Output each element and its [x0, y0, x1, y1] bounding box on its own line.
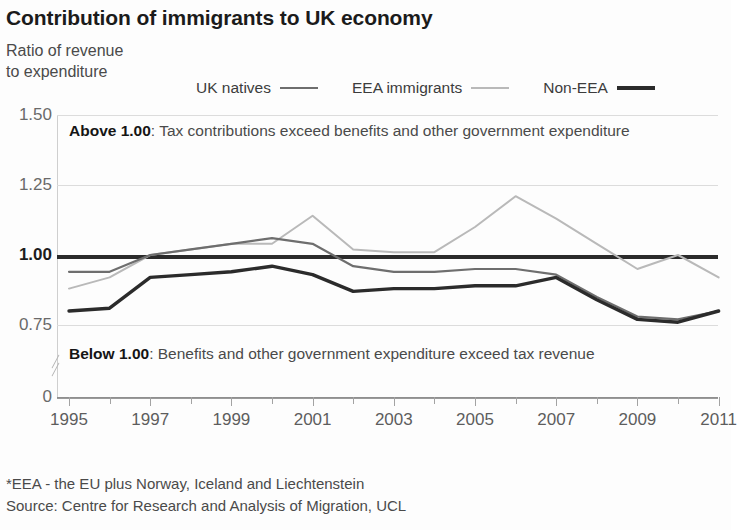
- y-tick-label-0: 0: [0, 387, 52, 407]
- x-axis-line: [57, 397, 718, 398]
- legend-swatch-uk-natives-icon: [280, 87, 318, 89]
- footer-note: *EEA - the EU plus Norway, Iceland and L…: [6, 473, 406, 517]
- y-tick-label-0-75: 0.75: [0, 315, 52, 335]
- x-tick-1997: [150, 397, 151, 406]
- x-tick-2001: [313, 397, 314, 406]
- x-tick-2006: [516, 397, 517, 404]
- x-tick-label-2005: 2005: [456, 410, 494, 430]
- chart-legend: UK natives EEA immigrants Non-EEA: [196, 79, 655, 97]
- plot-area: 00.751.001.251.50 Above 1.00: Tax contri…: [57, 115, 718, 397]
- x-tick-2009: [637, 397, 638, 406]
- x-tick-2004: [434, 397, 435, 404]
- legend-label-eea-immigrants: EEA immigrants: [352, 79, 462, 97]
- series-line-non-eea: [69, 266, 719, 322]
- legend-label-non-eea: Non-EEA: [543, 79, 608, 97]
- y-axis-caption: Ratio of revenue to expenditure: [6, 40, 123, 82]
- legend-item-uk-natives: UK natives: [196, 79, 318, 97]
- x-tick-2003: [394, 397, 395, 406]
- x-tick-label-1999: 1999: [212, 410, 250, 430]
- page-title: Contribution of immigrants to UK economy: [6, 6, 433, 30]
- y-tick-label-1-25: 1.25: [0, 175, 52, 195]
- x-tick-1998: [191, 397, 192, 404]
- x-tick-2005: [475, 397, 476, 406]
- x-tick-label-2011: 2011: [700, 410, 737, 430]
- x-tick-2011: [719, 397, 720, 406]
- x-tick-1996: [110, 397, 111, 404]
- series-lines: [57, 115, 718, 397]
- legend-label-uk-natives: UK natives: [196, 79, 271, 97]
- x-axis: 199519971999200120032005200720092011: [57, 397, 718, 439]
- x-tick-2007: [556, 397, 557, 406]
- y-tick-label-1-50: 1.50: [0, 105, 52, 125]
- x-tick-label-2003: 2003: [375, 410, 413, 430]
- legend-swatch-eea-immigrants-icon: [471, 87, 509, 89]
- legend-item-eea-immigrants: EEA immigrants: [352, 79, 509, 97]
- x-tick-label-2009: 2009: [618, 410, 656, 430]
- x-tick-2008: [597, 397, 598, 404]
- x-tick-label-2001: 2001: [294, 410, 332, 430]
- x-tick-2010: [678, 397, 679, 404]
- x-tick-1995: [69, 397, 70, 406]
- x-tick-label-1995: 1995: [50, 410, 88, 430]
- x-tick-1999: [231, 397, 232, 406]
- series-line-uk-natives: [69, 238, 719, 319]
- x-tick-2000: [272, 397, 273, 404]
- x-tick-label-1997: 1997: [131, 410, 169, 430]
- x-tick-2002: [353, 397, 354, 404]
- y-tick-label-1-00: 1.00: [0, 245, 52, 265]
- legend-swatch-non-eea-icon: [617, 86, 655, 90]
- legend-item-non-eea: Non-EEA: [543, 79, 655, 97]
- x-tick-label-2007: 2007: [537, 410, 575, 430]
